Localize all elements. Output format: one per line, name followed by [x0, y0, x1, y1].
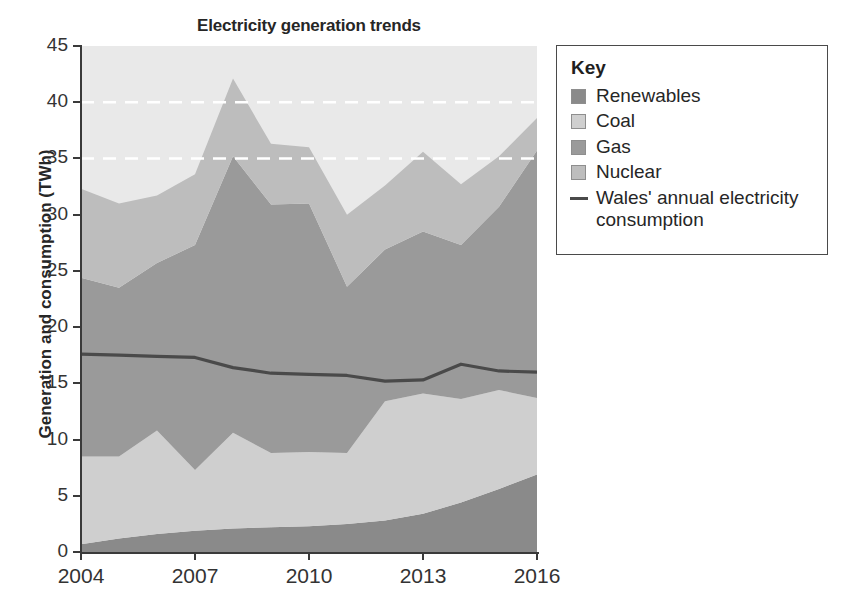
y-tick-label-35: 35 — [47, 146, 68, 168]
x-tick-2013: 2013 — [422, 552, 424, 560]
legend-item-gas[interactable]: Gas — [571, 136, 815, 158]
x-tick-2007: 2007 — [194, 552, 196, 560]
y-tick-label-20: 20 — [47, 315, 68, 337]
legend-key-box: Key RenewablesCoalGasNuclearWales' annua… — [556, 45, 828, 255]
y-tick-label-30: 30 — [47, 203, 68, 225]
y-tick-label-10: 10 — [47, 428, 68, 450]
y-tick-10: 10 — [73, 439, 81, 441]
legend-item-label: Coal — [596, 110, 635, 132]
plot-area: 051015202530354045 20042007201020132016 — [81, 46, 537, 552]
y-tick-label-15: 15 — [47, 371, 68, 393]
chart-title: Electricity generation trends — [81, 16, 537, 36]
y-tick-label-25: 25 — [47, 259, 68, 281]
y-tick-40: 40 — [73, 101, 81, 103]
y-tick-25: 25 — [73, 270, 81, 272]
chart-page: Electricity generation trends Generation… — [0, 0, 842, 612]
y-axis-line — [80, 45, 82, 553]
x-tick-label-2013: 2013 — [400, 564, 447, 588]
legend-item-coal[interactable]: Coal — [571, 110, 815, 132]
y-tick-30: 30 — [73, 214, 81, 216]
y-tick-label-40: 40 — [47, 90, 68, 112]
x-tick-2004: 2004 — [80, 552, 82, 560]
legend-title: Key — [571, 58, 815, 79]
x-tick-label-2010: 2010 — [286, 564, 333, 588]
x-tick-2010: 2010 — [308, 552, 310, 560]
x-tick-2016: 2016 — [536, 552, 538, 560]
y-tick-15: 15 — [73, 382, 81, 384]
y-tick-label-5: 5 — [57, 484, 68, 506]
legend-item-label: Nuclear — [596, 161, 661, 183]
y-tick-20: 20 — [73, 326, 81, 328]
legend-item-wales-annual-electricity-consumption[interactable]: Wales' annual electricity consumption — [571, 187, 815, 232]
y-tick-label-45: 45 — [47, 34, 68, 56]
legend-items: RenewablesCoalGasNuclearWales' annual el… — [571, 85, 815, 231]
y-tick-45: 45 — [73, 45, 81, 47]
legend-line-marker-icon — [571, 191, 586, 206]
legend-item-label: Gas — [596, 136, 631, 158]
stacked-area-plot — [81, 46, 537, 552]
legend-swatch-icon — [571, 165, 586, 180]
y-tick-5: 5 — [73, 495, 81, 497]
x-tick-label-2007: 2007 — [172, 564, 219, 588]
legend-swatch-icon — [571, 114, 586, 129]
legend-swatch-icon — [571, 89, 586, 104]
legend-item-nuclear[interactable]: Nuclear — [571, 161, 815, 183]
legend-item-renewables[interactable]: Renewables — [571, 85, 815, 107]
y-tick-label-0: 0 — [57, 540, 68, 562]
legend-swatch-icon — [571, 140, 586, 155]
x-tick-label-2016: 2016 — [514, 564, 561, 588]
y-tick-35: 35 — [73, 157, 81, 159]
legend-item-label: Wales' annual electricity consumption — [596, 187, 811, 232]
legend-item-label: Renewables — [596, 85, 701, 107]
x-tick-label-2004: 2004 — [58, 564, 105, 588]
